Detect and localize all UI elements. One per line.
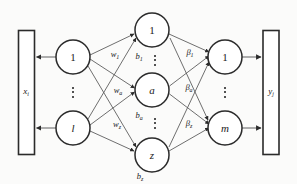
output-vector-label: yj [268, 87, 274, 98]
input-node-bottom-label: l [71, 123, 74, 134]
beta-label-1: β1 [186, 48, 193, 59]
weight-label-1: w1 [111, 50, 120, 61]
output-node-bottom-label: m [221, 123, 229, 134]
weight-label-a: wa [114, 86, 123, 97]
input-vector-label: xi [23, 87, 29, 98]
output-layer-ellipsis [224, 84, 226, 100]
bias-label-z: bz [137, 172, 144, 183]
weight-label-z: wz [113, 120, 121, 131]
bias-label-a: ba [135, 111, 142, 122]
input-layer-ellipsis [72, 84, 74, 100]
hidden-layer-ellipsis-lower [154, 115, 156, 131]
input-node-top-label: 1 [70, 52, 76, 63]
beta-label-a: βa [185, 83, 192, 94]
neural-network-diagram: xi yj 1 l 1 a z 1 m w1 wa wz b1 ba bz [0, 0, 297, 184]
hidden-node-middle-label: a [149, 85, 155, 96]
bias-label-1: b1 [135, 52, 142, 63]
hidden-layer-ellipsis-upper [154, 52, 156, 68]
hidden-node-bottom-label: z [150, 150, 154, 161]
hidden-node-top-label: 1 [149, 25, 155, 36]
beta-label-z: βz [186, 119, 193, 130]
output-node-top-label: 1 [222, 52, 228, 63]
